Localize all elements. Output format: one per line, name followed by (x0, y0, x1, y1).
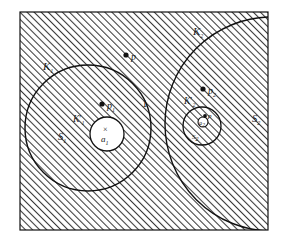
point-p-inner-dot (203, 114, 207, 118)
hatched-region-S2-inner (0, 0, 289, 248)
label-p: p (130, 51, 136, 62)
nested-disks-figure: K1 K2 p p1 p2 p K′1 K′2 S1 S2 S2 × a1 a2 (0, 0, 289, 248)
label-cross-a1: × (103, 125, 108, 134)
diagram-canvas: K1 K2 p p1 p2 p K′1 K′2 S1 S2 S2 × a1 a2 (0, 0, 289, 248)
point-p1-dot (99, 101, 104, 106)
point-p2-dot (200, 86, 205, 91)
point-p-dot (123, 52, 128, 57)
label-p-inner: p (207, 112, 212, 120)
label-region-one: 1 (142, 97, 148, 109)
